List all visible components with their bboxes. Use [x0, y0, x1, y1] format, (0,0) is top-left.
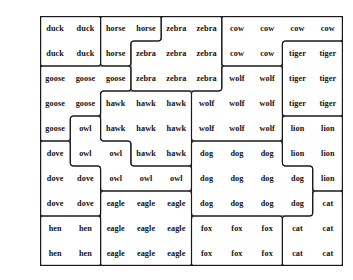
grid-cell[interactable]: cow: [313, 16, 343, 41]
grid-cell[interactable]: tiger: [313, 41, 343, 66]
grid-cell[interactable]: hen: [70, 216, 100, 241]
grid-cell[interactable]: goose: [70, 91, 100, 116]
grid-cell[interactable]: tiger: [313, 91, 343, 116]
grid-cell[interactable]: wolf: [252, 66, 282, 91]
grid-cell[interactable]: zebra: [191, 16, 221, 41]
grid-cell[interactable]: dog: [252, 141, 282, 166]
grid-cell[interactable]: fox: [191, 216, 221, 241]
grid-cell[interactable]: zebra: [161, 41, 191, 66]
grid-cell[interactable]: hawk: [131, 116, 161, 141]
grid-cell[interactable]: eagle: [131, 191, 161, 216]
grid-cell[interactable]: wolf: [191, 91, 221, 116]
grid-cell[interactable]: dog: [222, 166, 252, 191]
grid-cell[interactable]: dog: [252, 191, 282, 216]
grid-cell[interactable]: cat: [313, 191, 343, 216]
grid-cell[interactable]: tiger: [282, 91, 312, 116]
grid-cell[interactable]: dog: [191, 191, 221, 216]
grid-cell[interactable]: eagle: [101, 191, 131, 216]
grid-cell[interactable]: zebra: [131, 41, 161, 66]
grid-cell[interactable]: fox: [252, 241, 282, 266]
grid-cell[interactable]: owl: [101, 166, 131, 191]
grid-cell[interactable]: horse: [131, 16, 161, 41]
grid-cell[interactable]: zebra: [161, 66, 191, 91]
grid-cell[interactable]: hawk: [131, 91, 161, 116]
grid-cell[interactable]: hawk: [101, 116, 131, 141]
grid-cell[interactable]: wolf: [191, 116, 221, 141]
grid-cell[interactable]: fox: [222, 241, 252, 266]
grid-cell[interactable]: wolf: [252, 91, 282, 116]
grid-cell[interactable]: lion: [313, 141, 343, 166]
grid-cell[interactable]: hen: [40, 216, 70, 241]
grid-cell[interactable]: cow: [222, 41, 252, 66]
grid-cell[interactable]: fox: [252, 216, 282, 241]
grid-cell[interactable]: eagle: [161, 241, 191, 266]
grid-cell[interactable]: duck: [40, 41, 70, 66]
grid-cell[interactable]: cow: [252, 41, 282, 66]
grid-cell[interactable]: dove: [70, 166, 100, 191]
grid-cell[interactable]: eagle: [161, 216, 191, 241]
grid-cell[interactable]: goose: [40, 91, 70, 116]
grid-cell[interactable]: lion: [313, 166, 343, 191]
grid-cell[interactable]: zebra: [131, 66, 161, 91]
grid-cell[interactable]: cat: [282, 241, 312, 266]
grid-cell[interactable]: zebra: [161, 16, 191, 41]
grid-cell[interactable]: hawk: [161, 141, 191, 166]
grid-cell[interactable]: hen: [40, 241, 70, 266]
grid-cell[interactable]: tiger: [282, 66, 312, 91]
grid-cell[interactable]: dog: [222, 191, 252, 216]
grid-cell[interactable]: cat: [313, 216, 343, 241]
grid-cell[interactable]: eagle: [161, 191, 191, 216]
grid-cell[interactable]: cow: [222, 16, 252, 41]
grid-cell[interactable]: goose: [40, 116, 70, 141]
grid-cell[interactable]: eagle: [131, 241, 161, 266]
grid-cell[interactable]: dove: [40, 191, 70, 216]
grid-cell[interactable]: cat: [313, 241, 343, 266]
grid-cell[interactable]: goose: [70, 66, 100, 91]
grid-cell[interactable]: fox: [191, 241, 221, 266]
grid-cell[interactable]: cat: [282, 216, 312, 241]
grid-cell[interactable]: goose: [101, 66, 131, 91]
grid-cell[interactable]: duck: [70, 41, 100, 66]
grid-cell[interactable]: fox: [222, 216, 252, 241]
grid-cell[interactable]: eagle: [101, 216, 131, 241]
grid-cell[interactable]: owl: [70, 116, 100, 141]
grid-cell[interactable]: owl: [101, 141, 131, 166]
grid-cell[interactable]: lion: [282, 141, 312, 166]
grid-cell[interactable]: dog: [282, 191, 312, 216]
grid-cell[interactable]: duck: [70, 16, 100, 41]
grid-cell[interactable]: owl: [131, 166, 161, 191]
grid-cell[interactable]: wolf: [252, 116, 282, 141]
grid-cell[interactable]: horse: [101, 16, 131, 41]
grid-cell[interactable]: lion: [313, 116, 343, 141]
grid-cell[interactable]: tiger: [313, 66, 343, 91]
grid-cell[interactable]: hawk: [101, 91, 131, 116]
grid-cell[interactable]: eagle: [131, 216, 161, 241]
grid-cell[interactable]: dog: [282, 166, 312, 191]
grid-cell[interactable]: owl: [161, 166, 191, 191]
grid-cell[interactable]: zebra: [191, 41, 221, 66]
grid-cell[interactable]: zebra: [191, 66, 221, 91]
grid-cell[interactable]: dog: [191, 166, 221, 191]
grid-cell[interactable]: dove: [40, 166, 70, 191]
grid-cell[interactable]: lion: [282, 116, 312, 141]
grid-cell[interactable]: dove: [70, 191, 100, 216]
grid-cell[interactable]: goose: [40, 66, 70, 91]
grid-cell[interactable]: dog: [222, 141, 252, 166]
grid-cell[interactable]: wolf: [222, 116, 252, 141]
grid-cell[interactable]: eagle: [101, 241, 131, 266]
grid-cell[interactable]: horse: [101, 41, 131, 66]
grid-cell[interactable]: hawk: [131, 141, 161, 166]
grid-cell[interactable]: wolf: [222, 66, 252, 91]
grid-cell[interactable]: hawk: [161, 91, 191, 116]
grid-cell[interactable]: wolf: [222, 91, 252, 116]
grid-cell[interactable]: cow: [282, 16, 312, 41]
grid-cell[interactable]: hawk: [161, 116, 191, 141]
grid-cell[interactable]: dog: [191, 141, 221, 166]
grid-cell[interactable]: dog: [252, 166, 282, 191]
grid-cell[interactable]: cow: [252, 16, 282, 41]
grid-cell[interactable]: duck: [40, 16, 70, 41]
grid-cell[interactable]: owl: [70, 141, 100, 166]
grid-cell[interactable]: tiger: [282, 41, 312, 66]
grid-cell[interactable]: dove: [40, 141, 70, 166]
grid-cell[interactable]: hen: [70, 241, 100, 266]
